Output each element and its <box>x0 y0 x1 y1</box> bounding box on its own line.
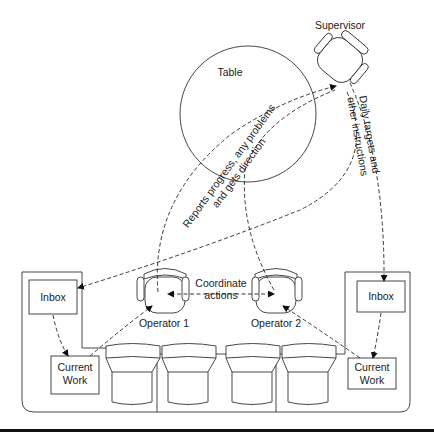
console-2 <box>162 344 216 405</box>
current-work-left-line1: Current <box>57 361 92 373</box>
supervisor-chair <box>307 22 378 92</box>
edge-inbox-left-to-current-work <box>53 315 68 356</box>
inbox-right-label: Inbox <box>368 290 394 302</box>
current-work-right-line1: Current <box>354 361 389 373</box>
inbox-left-label: Inbox <box>40 291 66 303</box>
operator-1-label: Operator 1 <box>139 317 189 329</box>
current-work-left-line2: Work <box>63 374 88 386</box>
inbox-left: Inbox <box>29 280 77 314</box>
workplace-diagram: Inbox Current Work Inbox Current Work Ta… <box>0 0 434 437</box>
console-3 <box>226 344 280 405</box>
inbox-right: Inbox <box>357 281 405 312</box>
daily-label: Daily targets and other instructions <box>345 94 383 177</box>
current-work-left: Current Work <box>51 356 99 394</box>
operator-2-chair <box>252 269 302 314</box>
current-work-right: Current Work <box>348 358 396 389</box>
console-4 <box>282 344 336 405</box>
table-label: Table <box>217 66 242 78</box>
operator-1-chair <box>137 269 189 314</box>
bottom-rule <box>0 429 434 432</box>
supervisor-label: Supervisor <box>315 19 366 31</box>
console-1 <box>106 344 160 405</box>
current-work-right-line2: Work <box>360 374 385 386</box>
reports-label-line1: Reports progress, any problems <box>180 102 278 230</box>
coordinate-label-line1: Coordinate <box>195 277 247 289</box>
edge-inbox-right-to-current-work <box>373 313 381 358</box>
edge-operator1-to-supervisor <box>157 86 336 292</box>
coordinate-label-line2: actions <box>204 289 237 301</box>
operator-2-label: Operator 2 <box>251 317 301 329</box>
